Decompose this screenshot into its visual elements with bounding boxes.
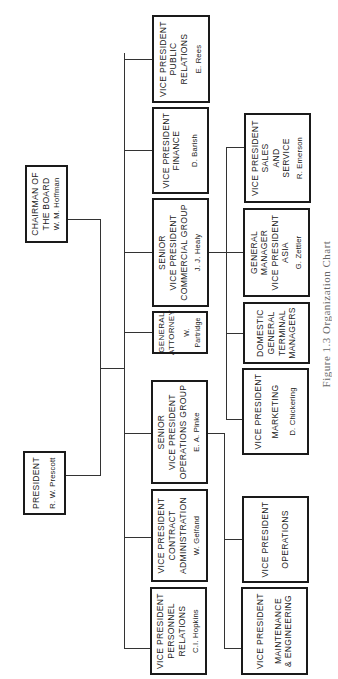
box-title: TERMINAL <box>277 310 288 356</box>
vp-personnel-relations-box: VICE PRESIDENT PERSONNEL RELATIONS C.I. … <box>150 587 207 675</box>
connector <box>124 433 151 434</box>
connector <box>208 252 226 253</box>
connector <box>124 59 152 60</box>
connector <box>224 539 242 540</box>
box-title: PERSONNEL <box>166 603 177 659</box>
vp-sales-service-box: VICE PRESIDENT SALES AND SERVICE R. Emer… <box>244 113 311 203</box>
box-person: D. Chickering <box>288 387 299 435</box>
president-box: PRESIDENT R. W. Prescott <box>23 451 66 515</box>
box-person: W. Partridge <box>182 313 203 352</box>
box-title: MANAGERS <box>287 307 298 359</box>
box-title: SERVICE <box>281 138 292 178</box>
box-title: GENERAL <box>249 231 260 274</box>
vp-finance-box: VICE PRESIDENT FINANCE D. Barish <box>152 107 209 194</box>
box-title: DOMESTIC <box>255 309 266 357</box>
svp-commercial-group-box: SENIOR VICE PRESIDENT COMMERCIAL GROUP J… <box>152 198 209 307</box>
connector <box>224 433 225 649</box>
box-person: E. A. Pinke <box>192 412 203 451</box>
box-title: VICE PRESIDENT <box>250 120 261 196</box>
box-title: VICE PRESIDENT <box>167 394 178 470</box>
box-person: W. M. Hoffman <box>52 178 63 231</box>
box-person: G. Zettler <box>294 236 305 270</box>
box-title: ASIA <box>280 242 291 263</box>
box-person: D. Barish <box>190 134 201 167</box>
connector <box>124 332 152 333</box>
box-title: VICE PRESIDENT <box>155 593 166 669</box>
connector <box>67 219 100 220</box>
vp-maintenance-engineering-box: VICE PRESIDENT MAINTENANCE & ENGINEERING <box>241 587 308 675</box>
connector <box>224 648 241 649</box>
vp-contract-administration-box: VICE PRESIDENT CONTRACT ADMINISTRATION W… <box>151 489 208 582</box>
box-title: MANAGER <box>259 230 270 276</box>
box-title: PRESIDENT <box>31 457 42 509</box>
box-title: VICE PRESIDENT <box>158 21 169 97</box>
box-title: ATTORNEY <box>167 310 178 355</box>
vp-operations-box: VICE PRESIDENT OPERATIONS <box>242 496 309 583</box>
box-title: RELATIONS <box>177 606 188 657</box>
connector <box>100 219 101 476</box>
box-title: CHAIRMAN OF <box>30 172 41 235</box>
box-title: FINANCE <box>171 131 182 171</box>
connector <box>226 147 244 148</box>
connector <box>124 150 152 151</box>
connector <box>124 53 125 649</box>
box-title: SALES <box>260 143 271 172</box>
connector <box>226 147 227 420</box>
box-title: VICE PRESIDENT <box>270 215 281 291</box>
connector <box>226 252 243 253</box>
box-person: R. Emerson <box>295 137 306 179</box>
connector <box>226 333 243 334</box>
svp-operations-group-box: SENIOR VICE PRESIDENT OPERATIONS GROUP E… <box>151 380 208 484</box>
connector <box>226 419 242 420</box>
connector <box>100 368 124 369</box>
box-title: AND <box>271 148 282 167</box>
box-title: VICE PRESIDENT <box>260 502 271 578</box>
box-title: VICE PRESIDENT <box>253 374 264 450</box>
box-person: C.I. Hopkins <box>191 609 202 653</box>
box-title: SENIOR <box>156 415 167 450</box>
box-person: J. J. Healy <box>193 234 204 272</box>
box-title: VICE PRESIDENT <box>255 593 266 669</box>
box-title: MARKETING <box>270 385 281 439</box>
figure-caption: Figure 1.3 Organization Chart <box>320 214 332 414</box>
org-chart: CHAIRMAN OF THE BOARD W. M. Hoffman PRES… <box>0 0 338 679</box>
domestic-general-terminal-managers-box: DOMESTIC GENERAL TERMINAL MANAGERS <box>243 302 310 364</box>
box-title: ADMINISTRATION <box>178 497 189 574</box>
connector <box>207 433 224 434</box>
chairman-box: CHAIRMAN OF THE BOARD W. M. Hoffman <box>25 165 68 243</box>
box-person: R. W. Prescott <box>48 457 59 508</box>
box-title: OPERATIONS GROUP <box>178 385 189 479</box>
general-attorney-box: GENERAL ATTORNEY W. Partridge <box>152 311 208 354</box>
connector <box>124 537 151 538</box>
vp-public-relations-box: VICE PRESIDENT PUBLIC RELATIONS E. Rees <box>152 15 210 103</box>
box-title: PUBLIC <box>168 43 179 76</box>
box-title: GENERAL <box>266 311 277 354</box>
box-title: & ENGINEERING <box>283 595 294 667</box>
box-title: OPERATIONS <box>280 510 291 569</box>
box-title: CONTRACT <box>167 510 178 560</box>
connector <box>124 252 152 253</box>
connector <box>124 648 150 649</box>
box-title: SENIOR <box>157 235 168 270</box>
box-title: VICE PRESIDENT <box>156 498 167 574</box>
box-title: RELATIONS <box>179 34 190 85</box>
box-title: MAINTENANCE <box>273 598 284 664</box>
gm-vp-asia-box: GENERAL MANAGER VICE PRESIDENT ASIA G. Z… <box>243 208 310 297</box>
box-title: THE BOARD <box>41 178 52 231</box>
box-title: GENERAL <box>157 312 168 352</box>
box-person: W. Gelfand <box>192 516 203 556</box>
box-person: E. Rees <box>194 45 205 73</box>
vp-marketing-box: VICE PRESIDENT MARKETING D. Chickering <box>242 368 309 455</box>
box-title: COMMERCIAL GROUP <box>179 204 190 301</box>
box-title: VICE PRESIDENT <box>168 215 179 291</box>
connector <box>65 475 100 476</box>
box-title: VICE PRESIDENT <box>161 113 172 189</box>
